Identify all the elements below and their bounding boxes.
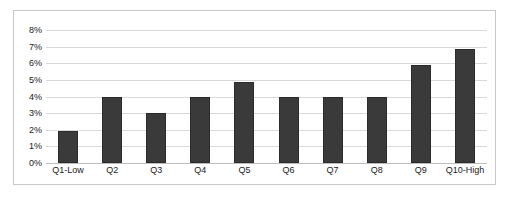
bar-slot bbox=[355, 30, 399, 163]
x-axis-tick-label: Q3 bbox=[134, 166, 178, 175]
x-axis-tick-label: Q6 bbox=[266, 166, 310, 175]
bar-slot bbox=[311, 30, 355, 163]
bar bbox=[102, 97, 122, 164]
y-axis-tick-label: 8% bbox=[14, 26, 42, 35]
y-axis-tick-label: 1% bbox=[14, 142, 42, 151]
bar-slot bbox=[443, 30, 487, 163]
y-axis-tick-label: 3% bbox=[14, 109, 42, 118]
gridline bbox=[46, 163, 487, 164]
bar bbox=[146, 113, 166, 163]
bar-slot bbox=[90, 30, 134, 163]
y-axis-tick-label: 0% bbox=[14, 159, 42, 168]
x-axis-tick-label: Q10-High bbox=[443, 166, 487, 175]
x-axis-tick-label: Q8 bbox=[355, 166, 399, 175]
bar-slot bbox=[178, 30, 222, 163]
x-axis-tick-labels: Q1-LowQ2Q3Q4Q5Q6Q7Q8Q9Q10-High bbox=[46, 166, 487, 175]
bar bbox=[323, 97, 343, 164]
bar bbox=[58, 131, 78, 163]
x-axis-tick-label: Q9 bbox=[399, 166, 443, 175]
plot-area: 0%1%2%3%4%5%6%7%8% bbox=[46, 30, 487, 163]
bar-slot bbox=[46, 30, 90, 163]
x-axis-tick-label: Q5 bbox=[222, 166, 266, 175]
y-axis-tick-label: 5% bbox=[14, 75, 42, 84]
x-axis-tick-label: Q7 bbox=[311, 166, 355, 175]
bar-slot bbox=[134, 30, 178, 163]
y-axis-tick-label: 2% bbox=[14, 125, 42, 134]
bar-slot bbox=[222, 30, 266, 163]
x-axis-tick-label: Q2 bbox=[90, 166, 134, 175]
y-axis-tick-label: 6% bbox=[14, 59, 42, 68]
bar bbox=[279, 97, 299, 164]
y-axis-tick-label: 7% bbox=[14, 42, 42, 51]
x-axis-tick-label: Q1-Low bbox=[46, 166, 90, 175]
bar bbox=[234, 82, 254, 163]
bar bbox=[190, 97, 210, 164]
chart-frame: 0%1%2%3%4%5%6%7%8% Q1-LowQ2Q3Q4Q5Q6Q7Q8Q… bbox=[13, 10, 496, 185]
bar bbox=[411, 65, 431, 163]
bar bbox=[455, 49, 475, 163]
bar-slot bbox=[266, 30, 310, 163]
bar-series bbox=[46, 30, 487, 163]
bar bbox=[367, 97, 387, 164]
y-axis-tick-label: 4% bbox=[14, 92, 42, 101]
x-axis-tick-label: Q4 bbox=[178, 166, 222, 175]
bar-slot bbox=[399, 30, 443, 163]
